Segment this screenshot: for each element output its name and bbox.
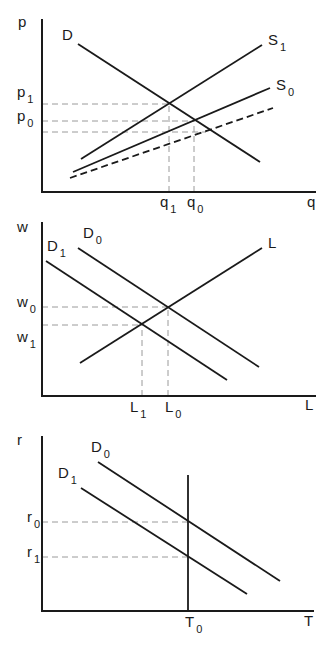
axes [42,436,314,611]
x-axis-label: L [305,396,313,413]
curve-S1-label: S1 [268,31,286,53]
panel-goods-market: DS1S0pqp1p0q1q0 [17,13,316,215]
tick-T0-label: T0 [185,613,202,635]
curve-D1-label: D1 [58,464,77,486]
curve-S1 [81,45,262,159]
panel-labor-market: D1D0LwLw0w1L1L0 [16,218,316,420]
x-axis-label: q [307,193,315,210]
panel-land-market: D0D1rTr0r1T0 [17,431,314,635]
economics-diagram: DS1S0pqp1p0q1q0D1D0LwLw0w1L1L0D0D1rTr0r1… [0,0,332,647]
tick-r0-label: r0 [27,508,40,530]
tick-L1-label: L1 [130,398,146,420]
curve-L-label: L [268,234,276,251]
curve-S-shifted [70,108,273,178]
x-axis-label: T [304,612,313,629]
tick-p0-label: p0 [17,107,33,129]
curve-S0-label: S0 [276,76,294,98]
curve-D0-label: D0 [83,224,102,246]
curve-S0 [73,88,270,172]
y-axis-label: p [18,13,26,30]
tick-w0-label: w0 [16,293,36,315]
tick-L0-label: L0 [165,398,181,420]
curve-D1 [81,488,247,594]
diagram-canvas: DS1S0pqp1p0q1q0D1D0LwLw0w1L1L0D0D1rTr0r1… [0,0,332,647]
tick-q1-label: q1 [160,193,176,215]
y-axis-label: r [17,431,22,448]
curve-D0-label: D0 [91,438,110,460]
curve-D-label: D [62,26,73,43]
tick-w1-label: w1 [16,328,36,350]
tick-p1-label: p1 [17,83,33,105]
tick-q0-label: q0 [187,193,203,215]
tick-r1-label: r1 [27,543,40,565]
curve-D1-label: D1 [47,237,66,259]
curve-D1 [46,261,227,380]
curve-L [80,248,262,363]
y-axis-label: w [16,218,28,235]
